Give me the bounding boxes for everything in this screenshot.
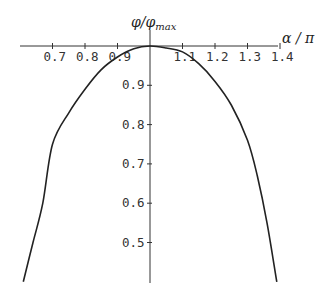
y-tick-label: 0.9 bbox=[122, 77, 145, 92]
y-tick-label: 0.7 bbox=[122, 156, 145, 171]
chart: 0.70.80.91.11.21.31.4 0.50.60.70.80.9 φ/… bbox=[0, 0, 327, 302]
x-tick-label: 1.2 bbox=[206, 49, 229, 64]
y-tick-label: 0.5 bbox=[122, 235, 145, 250]
y-tick-label: 0.6 bbox=[122, 195, 145, 210]
x-tick-label: 1.1 bbox=[174, 49, 197, 64]
y-axis-label-sub: max bbox=[155, 21, 176, 32]
y-ticks: 0.50.60.70.80.9 bbox=[122, 77, 152, 249]
x-tick-label: 0.8 bbox=[76, 49, 99, 64]
x-tick-label: 1.3 bbox=[239, 49, 262, 64]
y-axis-label: φ/φmax bbox=[131, 14, 177, 32]
y-tick-label: 0.8 bbox=[122, 117, 145, 132]
x-axis-label: α / π bbox=[282, 30, 315, 46]
x-tick-label: 0.7 bbox=[44, 49, 67, 64]
y-axis-label-main: φ/φ bbox=[131, 14, 156, 30]
x-tick-label: 1.4 bbox=[271, 49, 294, 64]
